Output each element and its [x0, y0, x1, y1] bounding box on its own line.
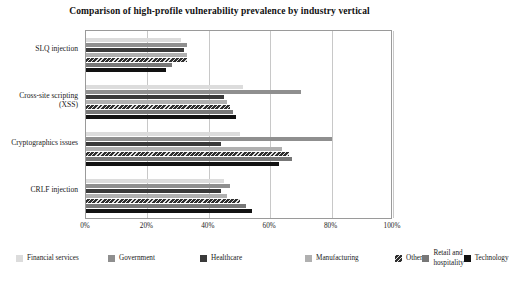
bar-crlf-injection-manufacturing — [86, 194, 227, 198]
bar-crlf-injection-healthcare — [86, 189, 221, 193]
bar-cryptographics-issues-financial-services — [86, 132, 240, 136]
chart-title: Comparison of high-profile vulnerability… — [0, 6, 439, 16]
bar-cryptographics-issues-manufacturing — [86, 147, 282, 151]
gridline-100 — [393, 31, 394, 218]
legend-item-government[interactable]: Government — [108, 253, 200, 263]
bar-slq-injection-technology — [86, 68, 166, 72]
legend-item-healthcare[interactable]: Healthcare — [200, 253, 305, 263]
bar-slq-injection-retail-and-hospitality — [86, 63, 172, 67]
legend-item-retail-and-hospitality[interactable]: Retail and hospitality — [422, 248, 463, 268]
chart-legend: Financial servicesGovernmentHealthcareMa… — [16, 252, 426, 264]
bar-cross-site-scripting-xss-other — [86, 105, 230, 109]
x-tick-label-20: 20% — [140, 222, 153, 230]
x-tick-label-80: 80% — [324, 222, 337, 230]
bar-cryptographics-issues-other — [86, 152, 289, 156]
legend-swatch-retail-and-hospitality — [422, 255, 429, 262]
bar-crlf-injection-retail-and-hospitality — [86, 204, 246, 208]
legend-label: Retail and hospitality — [433, 248, 463, 268]
x-tick-label-100: 100% — [384, 222, 401, 230]
legend-label: Financial services — [27, 253, 79, 263]
legend-swatch-financial-services — [16, 255, 23, 262]
legend-label: Other — [406, 253, 422, 263]
legend-swatch-government — [108, 255, 115, 262]
bar-cross-site-scripting-xss-retail-and-hospitality — [86, 110, 233, 114]
x-tick-label-40: 40% — [201, 222, 214, 230]
bar-cross-site-scripting-xss-manufacturing — [86, 100, 227, 104]
bar-slq-injection-manufacturing — [86, 53, 187, 57]
bar-group-cross-site-scripting-xss — [86, 78, 391, 125]
legend-swatch-technology — [464, 255, 471, 262]
legend-swatch-healthcare — [200, 255, 207, 262]
legend-item-other[interactable]: Other — [395, 253, 422, 263]
bar-cryptographics-issues-retail-and-hospitality — [86, 157, 292, 161]
bar-crlf-injection-government — [86, 184, 230, 188]
bar-slq-injection-healthcare — [86, 48, 184, 52]
bar-group-crlf-injection — [86, 173, 391, 220]
bar-slq-injection-other — [86, 58, 187, 62]
bar-cross-site-scripting-xss-government — [86, 90, 301, 94]
legend-label: Healthcare — [211, 253, 242, 263]
bar-group-cryptographics-issues — [86, 126, 391, 173]
legend-swatch-other — [395, 255, 402, 262]
legend-label: Manufacturing — [316, 253, 359, 263]
bar-cross-site-scripting-xss-technology — [86, 115, 236, 119]
bar-crlf-injection-financial-services — [86, 179, 224, 183]
legend-item-financial-services[interactable]: Financial services — [16, 253, 108, 263]
bar-slq-injection-government — [86, 43, 187, 47]
category-label-cryptographics-issues: Cryptographics issues — [0, 138, 84, 147]
category-label-cross-site-scripting-xss: Cross-site scripting (XSS) — [0, 91, 84, 110]
legend-item-technology[interactable]: Technology — [464, 253, 509, 263]
legend-label: Government — [119, 253, 155, 263]
bar-cryptographics-issues-government — [86, 137, 332, 141]
bar-crlf-injection-other — [86, 199, 240, 203]
bar-cryptographics-issues-healthcare — [86, 142, 221, 146]
legend-label: Technology — [475, 253, 509, 263]
legend-item-manufacturing[interactable]: Manufacturing — [305, 253, 395, 263]
bar-cross-site-scripting-xss-healthcare — [86, 95, 224, 99]
bar-cryptographics-issues-technology — [86, 162, 279, 166]
bar-group-slq-injection — [86, 31, 391, 78]
category-label-slq-injection: SLQ injection — [0, 44, 84, 53]
bar-crlf-injection-technology — [86, 209, 252, 213]
plot-area — [85, 30, 392, 219]
x-tick-label-60: 60% — [263, 222, 276, 230]
bar-slq-injection-financial-services — [86, 38, 181, 42]
bar-cross-site-scripting-xss-financial-services — [86, 85, 243, 89]
x-tick-label-0: 0% — [80, 222, 90, 230]
legend-swatch-manufacturing — [305, 255, 312, 262]
category-label-crlf-injection: CRLF injection — [0, 185, 84, 194]
